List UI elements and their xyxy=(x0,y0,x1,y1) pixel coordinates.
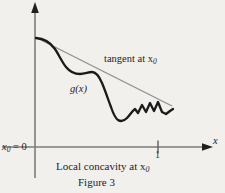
figure-number: Figure 3 xyxy=(78,177,115,188)
x-axis-label: x xyxy=(213,136,218,147)
tangent-line xyxy=(37,38,172,106)
function-label: g(x) xyxy=(70,84,87,95)
x-axis xyxy=(2,143,213,151)
origin-label: x0 = 0 xyxy=(2,142,27,154)
y-axis xyxy=(31,2,39,178)
figure-caption-subscript: 0 xyxy=(146,165,150,174)
g-of-x-curve xyxy=(36,38,173,121)
x-tick-one-label: 1 xyxy=(155,150,160,160)
tangent-label-subscript: 0 xyxy=(153,57,157,66)
figure-caption: Local concavity at x0 xyxy=(56,161,149,174)
tangent-label: tangent at x0 xyxy=(104,54,157,66)
origin-label-value: = 0 xyxy=(10,141,26,152)
figure-container: tangent at x0 g(x) x0 = 0 1 x Local conc… xyxy=(0,0,225,193)
